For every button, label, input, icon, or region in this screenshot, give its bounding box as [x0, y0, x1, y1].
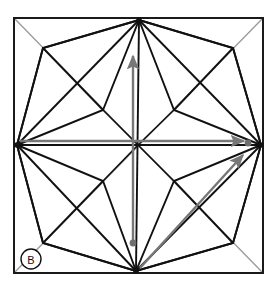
node-left-vertex — [14, 142, 20, 148]
node-right-vertex — [258, 142, 263, 147]
dot-vertical-arrow-tail — [130, 240, 137, 247]
panel-label-badge: B — [21, 249, 41, 269]
dot-right-vertex — [245, 140, 252, 147]
geometry-diagram: B — [0, 0, 275, 290]
node-bottom-vertex — [133, 268, 139, 274]
node-top-vertex — [136, 17, 141, 22]
panel-label-text: B — [27, 254, 34, 266]
figure-container: B — [0, 0, 275, 290]
